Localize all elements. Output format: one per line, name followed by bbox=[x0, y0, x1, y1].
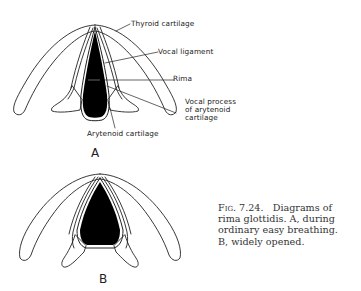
diagram-b-label: B bbox=[99, 272, 107, 286]
figure-drawing bbox=[0, 0, 361, 291]
caption-fig-number: Fig. 7.24. bbox=[218, 202, 264, 213]
label-vocal-process-line3: cartilage bbox=[185, 114, 218, 123]
label-rima: Rima bbox=[173, 75, 192, 84]
figure-caption: Fig. 7.24. Diagrams of rima glottidis. A… bbox=[218, 202, 348, 247]
caption-text-3: widely opened. bbox=[231, 236, 304, 247]
label-vocal-ligament: Vocal ligament bbox=[158, 48, 213, 57]
leader-lines-a bbox=[95, 24, 176, 128]
caption-marker-a: A, bbox=[290, 213, 300, 224]
label-arytenoid-cartilage: Arytenoid cartilage bbox=[87, 130, 159, 139]
arytenoid-left-a bbox=[51, 86, 82, 112]
label-thyroid-cartilage: Thyroid cartilage bbox=[131, 20, 194, 29]
diagram-a-label: A bbox=[91, 146, 99, 160]
arytenoid-right-a bbox=[108, 86, 139, 112]
caption-marker-b: B, bbox=[218, 236, 228, 247]
